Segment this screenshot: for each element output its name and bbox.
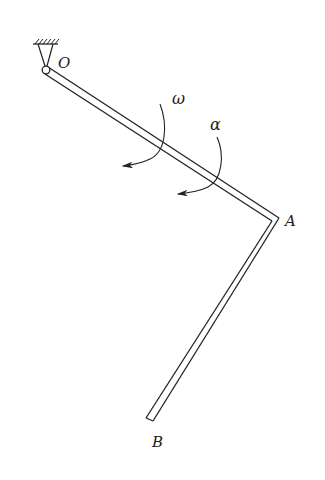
label-omega: ω [172, 89, 185, 108]
label-alpha: α [210, 115, 221, 134]
bent-rod-diagram: O A B ω α [0, 0, 325, 480]
label-b: B [151, 433, 163, 451]
ground-hatch [35, 39, 59, 44]
pin-joint-o [42, 66, 50, 74]
label-a: A [283, 212, 296, 230]
fixed-support [33, 39, 59, 66]
rod-ab [146, 218, 279, 421]
label-o: O [58, 54, 70, 72]
omega-arrow [123, 104, 165, 166]
